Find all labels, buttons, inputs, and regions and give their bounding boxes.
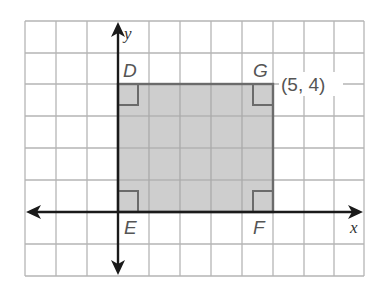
coordinate-label-G: (5, 4)	[281, 74, 325, 95]
vertex-label-E: E	[124, 217, 137, 238]
vertex-label-F: F	[253, 217, 266, 238]
x-axis-label: x	[349, 218, 358, 237]
vertex-label-D: D	[123, 60, 137, 81]
y-axis-label: y	[122, 24, 132, 43]
vertex-label-G: G	[253, 60, 268, 81]
coordinate-plane: y x D G E F (5, 4)	[0, 0, 384, 302]
